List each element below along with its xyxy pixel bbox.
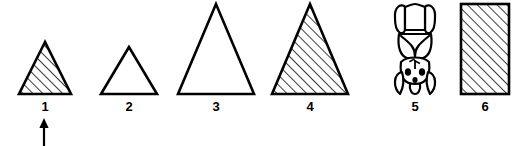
hatched-rectangle-icon [452,0,518,146]
hatched-triangle-large-icon [262,0,358,146]
specimen-label-2: 2 [90,100,168,113]
up-arrow-icon [35,118,53,146]
outline-triangle-small-icon [90,0,168,146]
specimen-label-4: 4 [262,100,358,113]
specimen-item-3: 3 [168,0,264,146]
specimen-item-5: 5 [382,0,448,146]
specimen-item-2: 2 [90,0,168,146]
outline-triangle-large-icon [168,0,264,146]
specimen-label-1: 1 [8,100,82,113]
anatomical-specimen-icon [382,0,448,146]
specimen-label-3: 3 [168,100,264,113]
specimen-item-4: 4 [262,0,358,146]
specimen-item-6: 6 [452,0,518,146]
specimen-figure: 123456 [0,0,522,146]
specimen-label-5: 5 [382,100,448,113]
specimen-label-6: 6 [452,100,518,113]
